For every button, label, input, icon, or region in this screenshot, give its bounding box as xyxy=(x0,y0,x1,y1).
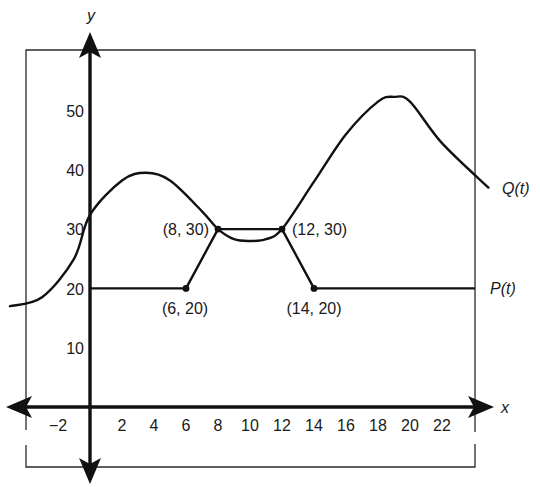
x-tick-label: 18 xyxy=(369,417,387,434)
y-tick-labels: 10 20 30 40 50 xyxy=(66,103,84,357)
p-curve xyxy=(90,229,474,288)
x-tick-label: 10 xyxy=(241,417,259,434)
y-tick-label: 50 xyxy=(66,103,84,120)
x-tick-label: 16 xyxy=(337,417,355,434)
point-12-30 xyxy=(279,226,286,233)
x-tick-label: 2 xyxy=(118,417,127,434)
x-tick-labels: −2 2 4 6 8 10 12 14 16 18 20 22 xyxy=(49,417,451,434)
x-tick-label: −2 xyxy=(49,417,67,434)
annotation-6-20: (6, 20) xyxy=(162,300,208,317)
x-tick-label: 8 xyxy=(214,417,223,434)
annotation-14-20: (14, 20) xyxy=(286,300,341,317)
y-tick-label: 10 xyxy=(66,340,84,357)
x-tick-label: 12 xyxy=(273,417,291,434)
y-axis xyxy=(79,32,101,484)
p-curve-label: P(t) xyxy=(490,280,516,297)
q-curve-label: Q(t) xyxy=(502,180,530,197)
x-axis xyxy=(6,396,494,418)
y-tick-label: 30 xyxy=(66,221,84,238)
function-graph: y x 10 20 30 40 50 −2 2 4 6 8 10 12 14 1… xyxy=(0,0,540,487)
point-8-30 xyxy=(215,226,222,233)
y-axis-label: y xyxy=(86,7,96,24)
x-tick-label: 22 xyxy=(433,417,451,434)
y-tick-label: 20 xyxy=(66,281,84,298)
x-tick-label: 14 xyxy=(305,417,323,434)
x-tick-label: 4 xyxy=(150,417,159,434)
annotation-8-30: (8, 30) xyxy=(163,221,209,238)
annotation-12-30: (12, 30) xyxy=(292,221,347,238)
q-curve xyxy=(10,96,488,306)
y-tick-label: 40 xyxy=(66,162,84,179)
plot-frame xyxy=(26,50,475,467)
point-14-20 xyxy=(311,285,318,292)
point-6-20 xyxy=(183,285,190,292)
x-tick-label: 20 xyxy=(401,417,419,434)
x-tick-label: 6 xyxy=(182,417,191,434)
x-axis-label: x xyxy=(500,399,510,416)
